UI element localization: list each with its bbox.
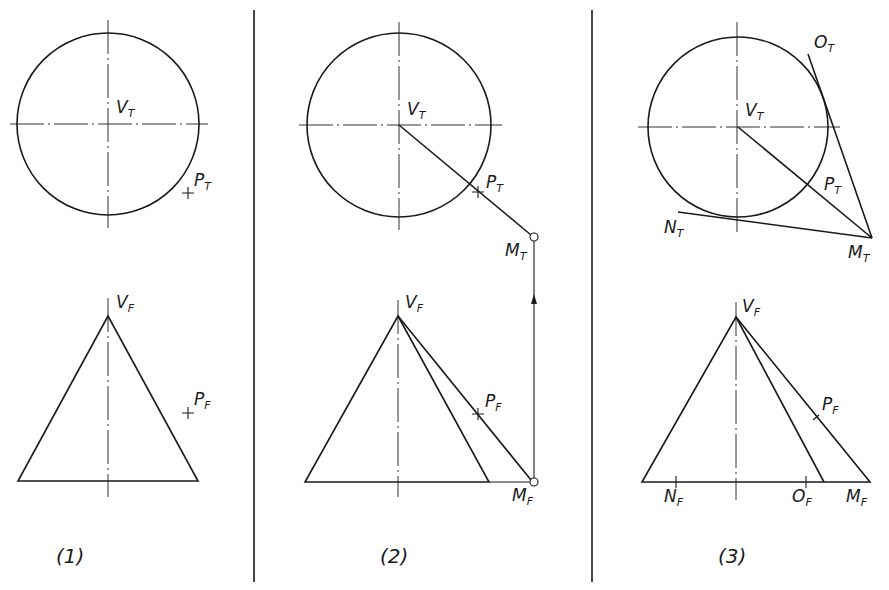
tangent-line-n — [678, 212, 872, 238]
panel-2: VT PT MT VF PF MF (2) — [299, 22, 538, 568]
panel-1: VT PT VF PF (1) — [10, 20, 212, 568]
label-ot: OT — [814, 32, 835, 55]
label-vf: VF — [116, 292, 135, 315]
tangent-line-o — [808, 54, 872, 238]
label-vt: VT — [407, 99, 427, 122]
cone-projection-figure: VT PT VF PF (1) VT PT MT VF PF MF (2) — [0, 0, 889, 590]
panel-caption-1: (1) — [56, 544, 84, 568]
arrow-up-icon — [531, 294, 537, 304]
element-line-o-front — [736, 317, 824, 482]
point-mf-circle — [530, 478, 538, 486]
panel-caption-3: (3) — [718, 544, 746, 568]
drawing: VT PT VF PF (1) VT PT MT VF PF MF (2) — [0, 0, 889, 590]
front-view-triangle — [305, 316, 489, 482]
element-line-top — [399, 125, 531, 235]
label-pt: PT — [486, 172, 504, 195]
label-vf: VF — [742, 296, 761, 319]
label-vt: VT — [116, 97, 136, 120]
element-line-front — [398, 316, 531, 480]
label-nf: NF — [664, 486, 684, 509]
label-nt: NT — [664, 217, 685, 240]
label-pf: PF — [194, 389, 211, 412]
label-vf: VF — [405, 292, 424, 315]
label-vt: VT — [745, 100, 765, 123]
label-mt: MT — [505, 240, 528, 263]
point-pt-cross — [182, 187, 194, 199]
label-mf: MF — [512, 485, 534, 508]
label-mt: MT — [848, 242, 871, 265]
front-view-triangle — [642, 317, 870, 482]
point-mt-circle — [530, 233, 538, 241]
panel-caption-2: (2) — [380, 544, 408, 568]
label-pf: PF — [485, 391, 502, 414]
label-pt: PT — [194, 170, 212, 193]
label-pt: PT — [824, 174, 842, 197]
point-pf-cross — [182, 407, 194, 419]
panel-3: VT OT PT NT MT VF PF NF OF MF (3) — [638, 22, 872, 568]
label-of: OF — [792, 486, 812, 509]
label-pf: PF — [822, 394, 839, 417]
label-mf: MF — [846, 486, 868, 509]
